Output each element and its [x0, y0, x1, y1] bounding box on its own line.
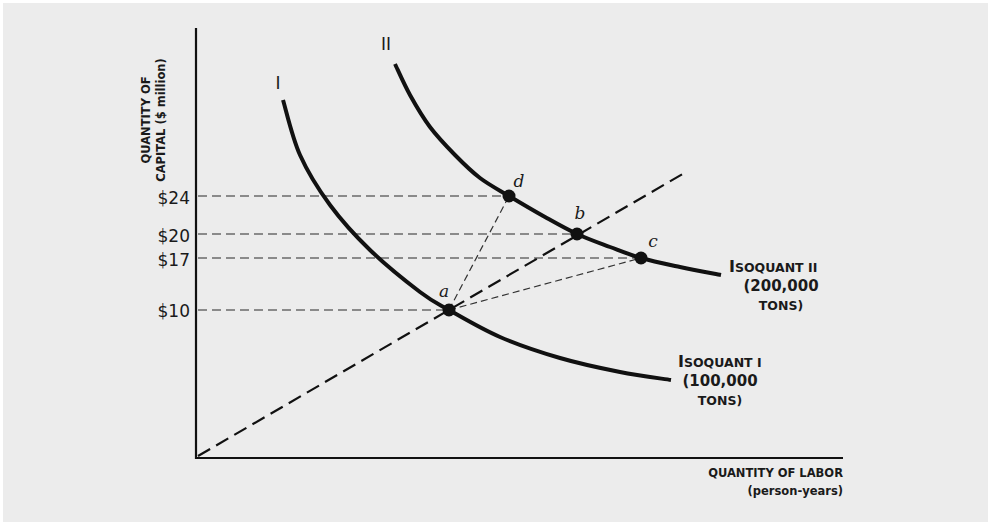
- svg-text:ISOQUANT I: ISOQUANT I: [678, 352, 762, 371]
- point-a: [443, 304, 456, 317]
- point-d: [503, 190, 516, 203]
- y-tick-20: $20: [158, 226, 190, 246]
- y-axis-title: QUANTITY OF CAPITAL ($ million): [139, 58, 168, 182]
- point-c: [635, 252, 648, 265]
- point-label-a: a: [439, 281, 449, 301]
- isoquant-chart: QUANTITY OF CAPITAL ($ million) $24 $20 …: [0, 0, 991, 527]
- isoquant-ii-curve: [395, 64, 721, 275]
- isoquant-i-label: ISOQUANT I (100,000 TONS): [678, 352, 762, 408]
- isoquant-ii-units: TONS): [759, 298, 803, 313]
- point-b: [571, 228, 584, 241]
- x-axis-title-line2: (person-years): [748, 484, 844, 498]
- point-label-b: b: [575, 203, 586, 223]
- y-tick-24: $24: [158, 188, 190, 208]
- point-label-c: c: [648, 231, 658, 251]
- isoquant-ii-label: ISOQUANT II (200,000 TONS): [729, 257, 819, 313]
- expansion-ray: [198, 172, 686, 456]
- isoquant-ii-rest: SOQUANT II: [735, 260, 817, 275]
- svg-text:ISOQUANT II: ISOQUANT II: [729, 257, 817, 276]
- curve-tag-ii: II: [381, 34, 391, 54]
- isoquant-i-rest: SOQUANT I: [684, 355, 762, 370]
- horizontal-guide-lines: [198, 196, 637, 310]
- isoquant-ii-output: (200,000: [743, 277, 818, 295]
- isoquant-i-output: (100,000: [682, 372, 757, 390]
- x-axis-title-line1: QUANTITY OF LABOR: [708, 466, 843, 480]
- isoquant-i-curve: [283, 100, 671, 380]
- y-tick-10: $10: [158, 301, 190, 321]
- isoquant-i-units: TONS): [698, 393, 742, 408]
- point-label-d: d: [514, 171, 525, 191]
- ray-a-c: [449, 258, 641, 310]
- y-tick-17: $17: [158, 250, 190, 270]
- y-axis-title-line2: CAPITAL ($ million): [154, 58, 168, 182]
- y-axis-title-line1: QUANTITY OF: [139, 76, 153, 163]
- curve-tag-i: I: [275, 73, 280, 93]
